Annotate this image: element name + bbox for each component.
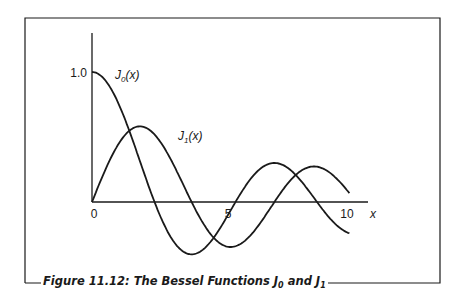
figure-caption: Figure 11.12: The Bessel Functions J0 an…: [41, 274, 328, 290]
y-tick-1: 1.0: [70, 66, 87, 80]
x-axis-label: x: [369, 207, 377, 221]
figure-frame: [25, 18, 440, 283]
series-j1-line: [92, 126, 349, 247]
series-j1-label: J1(x): [177, 129, 202, 145]
x-tick-10: 10: [340, 207, 354, 221]
bessel-chart: 1.0 0 5 10 x J0(x) J1(x): [0, 0, 460, 300]
series-j0-line: [92, 72, 349, 254]
x-tick-0: 0: [91, 207, 98, 221]
series-j0-label: J0(x): [114, 68, 139, 84]
